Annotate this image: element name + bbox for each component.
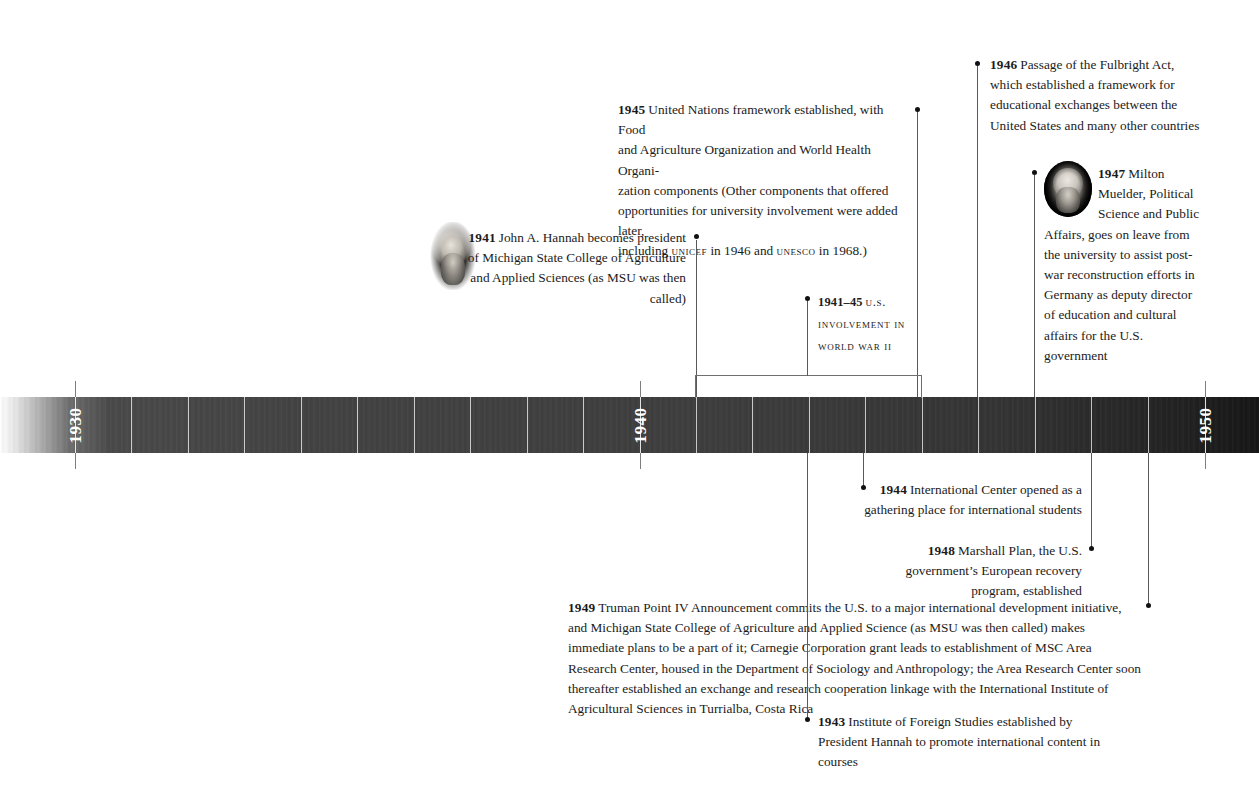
- entry-1949-text: Truman Point IV Announcement commits the…: [568, 600, 1141, 716]
- entry-1945-un-year: 1945: [618, 102, 648, 117]
- connector-1946-fulbright: [977, 66, 978, 397]
- bar-segment-divider: [301, 397, 302, 453]
- dot-wwii: [805, 296, 810, 301]
- bar-segment-divider: [696, 397, 697, 453]
- year-tick-1930-upper: [75, 381, 76, 397]
- portrait-wrap-spacer: [1044, 164, 1098, 222]
- entry-1943-foreign-studies: 1943Institute of Foreign Studies establi…: [818, 712, 1118, 773]
- year-tick-1950-lower: [1205, 453, 1206, 469]
- entry-1947-muelder: 1947Milton Muelder, Political Science an…: [1044, 164, 1204, 366]
- bar-segment-divider: [865, 397, 866, 453]
- year-label-1950: 1950: [1190, 397, 1220, 453]
- dot-1948-marshall-plan: [1089, 546, 1094, 551]
- year-tick-1940-upper: [640, 381, 641, 397]
- connector-1948-marshall-plan: [1091, 453, 1092, 548]
- bar-segment-divider: [131, 397, 132, 453]
- entry-1943-year: 1943: [818, 714, 848, 729]
- bar-segment-divider: [470, 397, 471, 453]
- year-tick-1940-lower: [640, 453, 641, 469]
- bar-segment-divider: [414, 397, 415, 453]
- dot-1949-point-iv: [1146, 603, 1151, 608]
- year-label-1930-text: 1930: [67, 407, 84, 443]
- dot-1945-un: [915, 107, 920, 112]
- entry-1945-un-line2: and Agriculture Organization and World H…: [618, 142, 871, 177]
- entry-1945-un-line5b: in 1946 and: [707, 243, 776, 258]
- entry-1945-un-line3: zation components (Other components that…: [618, 183, 888, 198]
- bar-segment-divider: [244, 397, 245, 453]
- entry-1941-hannah: 1941John A. Hannah becomes president of …: [466, 228, 686, 309]
- bar-segment-divider: [978, 397, 979, 453]
- bar-segment-divider: [752, 397, 753, 453]
- dot-1941-hannah: [694, 234, 699, 239]
- connector-1943-foreign-studies: [807, 453, 808, 719]
- entry-1941-45-wwii: 1941–45U.S. involvement in World War II: [818, 291, 928, 357]
- year-label-1940-text: 1940: [632, 407, 649, 443]
- bar-segment-divider: [583, 397, 584, 453]
- entry-1945-un-unesco: unesco: [777, 243, 816, 258]
- bar-segment-divider: [809, 397, 810, 453]
- connector-wwii: [807, 300, 808, 376]
- entry-1946-text: Passage of the Fulbright Act, which esta…: [990, 57, 1199, 133]
- year-label-1940: 1940: [625, 397, 655, 453]
- entry-wwii-year: 1941–45: [818, 295, 865, 309]
- year-tick-1930-lower: [75, 453, 76, 469]
- dot-1947-muelder: [1032, 170, 1037, 175]
- entry-1941-year: 1941: [468, 230, 498, 245]
- entry-1944-international-center: 1944International Center opened as a gat…: [855, 480, 1082, 520]
- bar-segment-divider: [1035, 397, 1036, 453]
- entry-1949-year: 1949: [568, 600, 598, 615]
- year-tick-1950-upper: [1205, 381, 1206, 397]
- dot-1946-fulbright: [975, 61, 980, 66]
- bar-segment-divider: [527, 397, 528, 453]
- entry-1946-year: 1946: [990, 57, 1020, 72]
- bracket-world-war-ii: [695, 375, 922, 398]
- bar-segment-divider: [922, 397, 923, 453]
- year-label-1930: 1930: [60, 397, 90, 453]
- entry-1949-point-iv: 1949Truman Point IV Announcement commits…: [568, 598, 1143, 719]
- entry-1945-un-line1: United Nations framework established, wi…: [618, 102, 884, 137]
- bar-segment-divider: [188, 397, 189, 453]
- entry-1948-marshall-plan: 1948Marshall Plan, the U.S. government’s…: [855, 541, 1082, 602]
- year-label-1950-text: 1950: [1197, 407, 1214, 443]
- bar-segment-divider: [357, 397, 358, 453]
- bar-segment-divider: [1148, 397, 1149, 453]
- dot-1943-foreign-studies: [805, 717, 810, 722]
- entry-1946-fulbright: 1946Passage of the Fulbright Act, which …: [990, 55, 1205, 136]
- entry-1944-year: 1944: [880, 482, 910, 497]
- connector-1941-hannah: [696, 240, 697, 397]
- entry-1941-text: John A. Hannah becomes president of Mich…: [468, 230, 686, 306]
- entry-1947-year: 1947: [1098, 166, 1128, 181]
- entry-1945-un-line5c: in 1968.): [816, 243, 867, 258]
- bar-segment-divider: [1091, 397, 1092, 453]
- entry-1943-text: Institute of Foreign Studies established…: [818, 714, 1100, 769]
- connector-1947-muelder: [1034, 175, 1035, 397]
- timeline-document: 1930 1940 1950 1945United Nations framew…: [0, 0, 1259, 794]
- connector-1949-point-iv: [1148, 453, 1149, 606]
- entry-1948-year: 1948: [928, 543, 958, 558]
